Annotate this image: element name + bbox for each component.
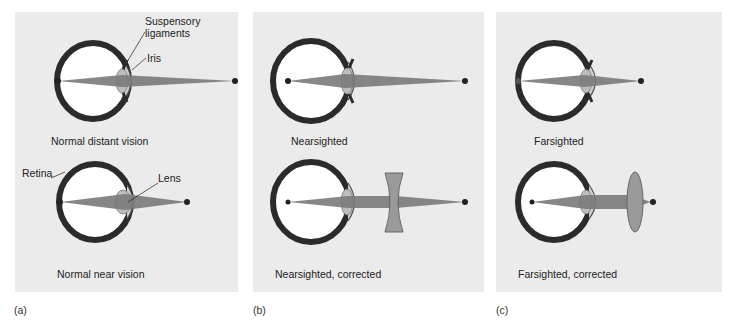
caption-normal-near: Normal near vision: [57, 268, 145, 280]
caption-farsighted-corrected: Farsighted, corrected: [518, 268, 617, 280]
panel-b-nearsighted: Nearsighted Nearsighted, corrected: [253, 12, 484, 292]
panel-label-c: (c): [496, 304, 508, 316]
label-ligaments-line2: ligaments: [145, 27, 200, 39]
panel-a-diagram: [15, 12, 238, 292]
caption-farsighted: Farsighted: [534, 135, 584, 147]
panel-b-diagram: [253, 12, 484, 292]
panel-c-diagram: [496, 12, 722, 292]
caption-nearsighted-corrected: Nearsighted, corrected: [275, 268, 381, 280]
panel-label-a: (a): [14, 304, 27, 316]
eye-normal-distant: [55, 32, 238, 119]
caption-nearsighted: Nearsighted: [291, 135, 348, 147]
label-lens: Lens: [158, 172, 181, 184]
panel-a-normal-vision: Suspensory ligaments Iris Retina Lens No…: [15, 12, 238, 292]
eye-nearsighted: [273, 41, 468, 121]
label-retina: Retina: [22, 167, 52, 179]
panel-label-b: (b): [253, 304, 266, 316]
eye-farsighted: [515, 43, 644, 119]
convex-lens: [627, 172, 643, 232]
eye-nearsighted-corrected: [273, 162, 468, 242]
eye-farsighted-corrected: [518, 164, 656, 240]
label-suspensory-line1: Suspensory: [145, 15, 200, 27]
label-iris: Iris: [147, 52, 161, 64]
caption-normal-distant: Normal distant vision: [51, 135, 148, 147]
label-suspensory-ligaments: Suspensory ligaments: [145, 15, 200, 39]
panel-c-farsighted: Farsighted Farsighted, corrected: [496, 12, 722, 292]
